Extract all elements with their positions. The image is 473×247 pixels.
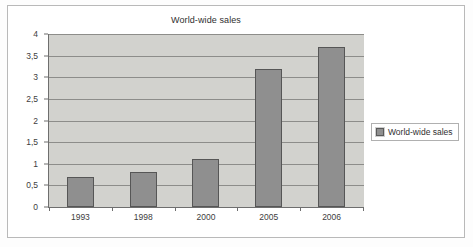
x-axis-tick-label: 1998 bbox=[112, 212, 175, 222]
x-axis-tick-mark bbox=[49, 207, 50, 211]
y-axis-tick-label: 2,5 bbox=[26, 94, 38, 104]
x-axis-tick-mark bbox=[175, 207, 176, 211]
bar-slot bbox=[112, 34, 175, 207]
y-axis-tick-label: 0 bbox=[33, 202, 38, 212]
y-axis-tick-label: 1,5 bbox=[26, 137, 38, 147]
y-axis-tick-label: 2 bbox=[33, 116, 38, 126]
bar bbox=[130, 172, 157, 207]
x-axis-tick-mark bbox=[300, 207, 301, 211]
x-axis-ticks bbox=[49, 207, 363, 211]
y-axis-tick-label: 0,5 bbox=[26, 180, 38, 190]
x-axis-tick-mark bbox=[112, 207, 113, 211]
x-axis-labels: 19931998200020052006 bbox=[49, 212, 363, 222]
y-axis-tick-label: 3 bbox=[33, 72, 38, 82]
bar-series bbox=[49, 34, 363, 207]
bar bbox=[192, 159, 219, 207]
bar-slot bbox=[49, 34, 112, 207]
bar-slot bbox=[175, 34, 238, 207]
y-axis-labels: 43,532,521,510,50 bbox=[8, 34, 44, 207]
y-axis-tick-label: 3,5 bbox=[26, 51, 38, 61]
bar bbox=[67, 177, 94, 207]
chart-legend: World-wide sales bbox=[371, 123, 459, 141]
x-axis-tick-label: 2005 bbox=[237, 212, 300, 222]
y-axis-tick-label: 4 bbox=[33, 29, 38, 39]
legend-item-label: World-wide sales bbox=[388, 127, 453, 137]
chart-title: World-wide sales bbox=[48, 15, 364, 25]
x-axis-tick-label: 2006 bbox=[300, 212, 363, 222]
x-axis-tick-label: 2000 bbox=[175, 212, 238, 222]
x-axis-tick-label: 1993 bbox=[49, 212, 112, 222]
x-axis-tick-mark bbox=[237, 207, 238, 211]
y-axis-tick-label: 1 bbox=[33, 159, 38, 169]
bar bbox=[318, 47, 345, 207]
bar bbox=[255, 69, 282, 207]
x-axis-tick-mark bbox=[363, 207, 364, 211]
bar-slot bbox=[237, 34, 300, 207]
chart-frame: World-wide sales 43,532,521,510,50 19931… bbox=[7, 5, 465, 238]
legend-swatch-icon bbox=[376, 128, 384, 136]
chart-page: World-wide sales 43,532,521,510,50 19931… bbox=[0, 0, 473, 247]
bar-slot bbox=[300, 34, 363, 207]
